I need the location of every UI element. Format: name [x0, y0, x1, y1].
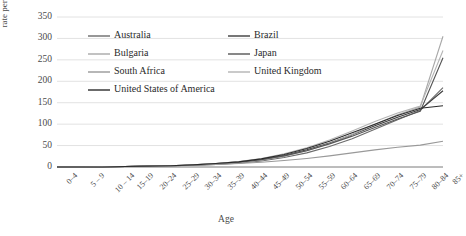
legend-label: United States of America — [114, 83, 215, 94]
series-line — [57, 91, 443, 167]
x-tick-label: 85+ — [451, 171, 466, 186]
legend-label: Brazil — [254, 29, 278, 40]
legend-label: Japan — [254, 47, 277, 58]
legend-label: South Africa — [114, 65, 165, 76]
legend-label: United Kingdom — [254, 65, 322, 76]
series-line — [57, 106, 443, 167]
legend-label: Bulgaria — [114, 47, 148, 58]
legend-label: Australia — [114, 29, 151, 40]
series-line — [57, 88, 443, 167]
